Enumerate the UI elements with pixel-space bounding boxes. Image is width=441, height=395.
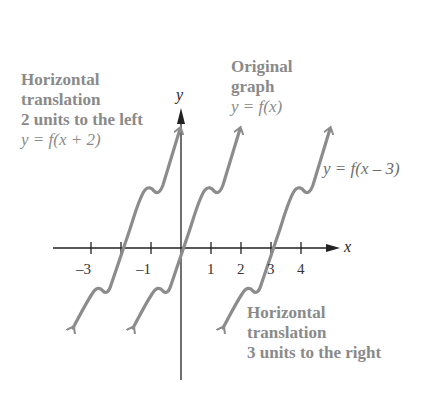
tick-label-3: 3 [267,262,275,277]
tick-label-4: 4 [297,262,305,277]
annotation-left-line3: 2 units to the left [21,110,143,129]
y-axis-arrow-icon [177,108,185,124]
graph-canvas [0,0,441,395]
annotation-original-line1: Original [231,57,292,76]
annotation-left-line1: Horizontal [21,70,99,89]
tick-label-neg1: –1 [136,262,151,277]
annotation-left-line2: translation [21,90,100,109]
curve-shift-right-3 [223,129,330,328]
annotation-right-line2: translation [247,323,326,342]
curve-shift-left-2 [73,129,180,328]
x-axis-arrow-icon [326,244,340,252]
annotation-right-equation: y = f(x – 3) [323,159,400,178]
tick-label-1: 1 [207,262,215,277]
annotation-right-line1: Horizontal [247,303,325,322]
y-axis-label: y [176,86,183,104]
tick-label-2: 2 [237,262,245,277]
annotation-original-equation: y = f(x) [231,97,282,116]
annotation-original-line2: graph [231,77,274,96]
curve-original [133,129,240,328]
annotation-left-equation: y = f(x + 2) [21,130,101,149]
tick-label-neg3: –3 [76,262,91,277]
annotation-right-line3: 3 units to the right [247,343,381,362]
x-axis-label: x [344,238,351,256]
